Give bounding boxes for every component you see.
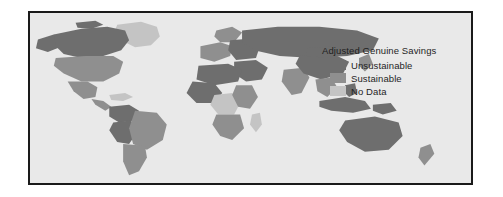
legend-swatch-no-data (330, 86, 346, 96)
legend-swatch-unsustainable (330, 60, 346, 70)
legend-label-unsustainable: Unsustainable (351, 60, 413, 71)
map-legend: Adjusted Genuine Savings Unsustainable S… (322, 45, 442, 98)
world-map-figure: Adjusted Genuine Savings Unsustainable S… (0, 0, 503, 197)
legend-item-unsustainable: Unsustainable (322, 59, 442, 71)
legend-label-no-data: No Data (351, 86, 387, 97)
legend-item-sustainable: Sustainable (322, 72, 442, 84)
legend-title: Adjusted Genuine Savings (322, 45, 442, 57)
legend-label-sustainable: Sustainable (351, 73, 402, 84)
legend-item-no-data: No Data (322, 85, 442, 97)
legend-swatch-sustainable (330, 73, 346, 83)
map-frame (28, 11, 473, 185)
world-map (30, 13, 471, 183)
